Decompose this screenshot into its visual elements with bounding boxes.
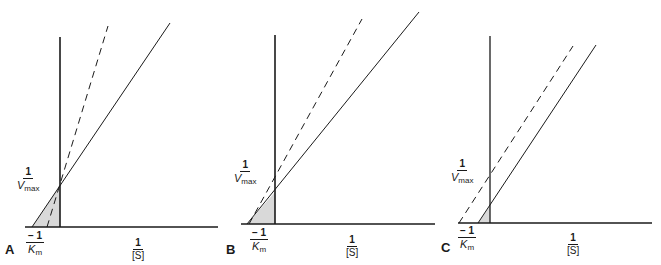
numerator: 1 xyxy=(240,160,250,172)
numerator: 1 xyxy=(457,159,467,171)
numerator: 1 xyxy=(568,233,578,245)
panel-a-solid-line xyxy=(32,23,170,227)
panel-b-inverse-vmax-label: 1 Vmax xyxy=(234,160,256,187)
numerator: − 1 xyxy=(250,228,268,240)
panel-b-solid-line xyxy=(247,12,419,224)
panel-b-inverse-s-label: 1 [S] xyxy=(346,235,358,258)
panel-c-inverse-vmax-label: 1 Vmax xyxy=(451,159,473,186)
numerator: 1 xyxy=(23,167,33,179)
numerator: 1 xyxy=(133,238,143,250)
panel-b-plot xyxy=(241,12,435,224)
numerator: − 1 xyxy=(26,231,44,243)
panel-a-plot xyxy=(25,23,218,227)
numerator: − 1 xyxy=(458,226,476,238)
panel-c-plot xyxy=(458,36,652,223)
panel-c-solid-line xyxy=(478,45,596,223)
panel-a-inverse-s-label: 1 [S] xyxy=(132,238,144,261)
panel-c-letter: C xyxy=(441,241,450,254)
numerator: 1 xyxy=(347,235,357,247)
panel-c-inverse-s-label: 1 [S] xyxy=(567,233,579,256)
panel-a-inverse-vmax-label: 1 Vmax xyxy=(17,167,39,194)
panel-a-neg-inverse-km-label: − 1 Km xyxy=(26,231,44,258)
lineweaver-burk-diagrams xyxy=(0,0,661,265)
panel-b-letter: B xyxy=(226,243,235,256)
panel-b-dashed-line xyxy=(249,19,362,224)
panel-c-neg-inverse-km-label: − 1 Km xyxy=(458,226,476,253)
panel-b-neg-inverse-km-label: − 1 Km xyxy=(250,228,268,255)
panel-a-letter: A xyxy=(5,243,14,256)
panel-c-dashed-line xyxy=(459,46,573,223)
